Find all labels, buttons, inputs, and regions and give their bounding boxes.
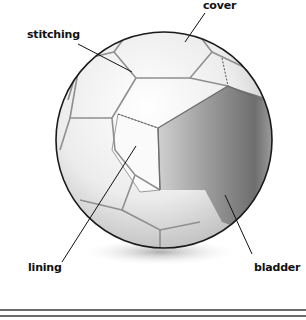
label-cover: cover [203, 0, 236, 12]
label-lining: lining [28, 261, 62, 274]
label-bladder: bladder [254, 261, 300, 274]
divider-rule-bottom [0, 315, 306, 317]
label-stitching: stitching [27, 28, 80, 41]
divider-rule-top [0, 309, 306, 311]
